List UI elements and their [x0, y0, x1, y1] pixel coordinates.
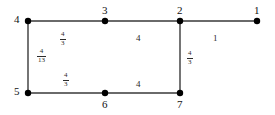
fraction-numerator: 4	[37, 48, 46, 55]
graph-node[interactable]	[102, 90, 108, 96]
edge-weight-label: 4	[136, 80, 141, 89]
node-label: 2	[177, 5, 183, 16]
edge-weight-fraction: 413	[37, 48, 46, 65]
graph-node[interactable]	[102, 18, 108, 24]
edge-weight-fraction: 43	[187, 50, 193, 67]
fraction-denominator: 3	[187, 59, 193, 66]
node-label: 7	[177, 99, 183, 110]
edge-weight-label: 4	[136, 34, 141, 43]
node-label: 5	[14, 86, 20, 97]
fraction-numerator: 4	[187, 50, 193, 57]
graph-node[interactable]	[254, 18, 260, 24]
fraction-denominator: 3	[60, 40, 66, 47]
fraction-numerator: 4	[63, 72, 69, 79]
node-label: 3	[102, 5, 108, 16]
node-label: 4	[14, 14, 20, 25]
graph-node[interactable]	[25, 18, 31, 24]
node-label: 1	[254, 5, 260, 16]
edge-weight-label: 1	[213, 34, 218, 43]
graph-node[interactable]	[25, 90, 31, 96]
graph-node[interactable]	[177, 90, 183, 96]
graph-node[interactable]	[177, 18, 183, 24]
fraction-numerator: 4	[60, 31, 66, 38]
edge-weight-fraction: 43	[63, 72, 69, 89]
fraction-denominator: 3	[63, 81, 69, 88]
edge-weight-fraction: 43	[60, 31, 66, 48]
diagram-canvas: 1234567434141343434	[0, 0, 275, 115]
fraction-denominator: 13	[37, 57, 46, 64]
node-label: 6	[102, 99, 108, 110]
